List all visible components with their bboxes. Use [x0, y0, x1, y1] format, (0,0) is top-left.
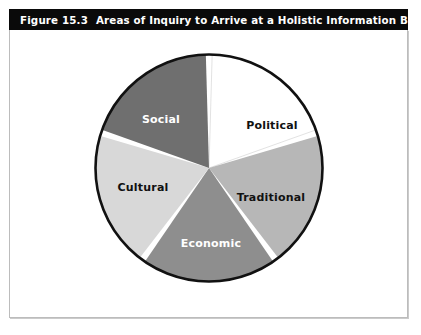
pie-slice-label-traditional: Traditional [237, 191, 306, 204]
figure-panel: PoliticalTraditionalEconomicCulturalSoci… [9, 30, 408, 318]
pie-slice-label-social: Social [142, 113, 180, 126]
figure-caption-title: Areas of Inquiry to Arrive at a Holistic… [96, 14, 421, 26]
pie-chart: PoliticalTraditionalEconomicCulturalSoci… [91, 50, 327, 286]
figure-number: Figure 15.3 [20, 14, 88, 26]
figure-container: Figure 15.3 Areas of Inquiry to Arrive a… [0, 0, 421, 335]
pie-slice-label-economic: Economic [181, 237, 241, 250]
pie-chart-svg: PoliticalTraditionalEconomicCulturalSoci… [91, 50, 327, 286]
pie-slice-label-political: Political [246, 119, 298, 132]
pie-slice-label-cultural: Cultural [118, 181, 169, 194]
figure-caption-bar: Figure 15.3 Areas of Inquiry to Arrive a… [9, 9, 408, 30]
